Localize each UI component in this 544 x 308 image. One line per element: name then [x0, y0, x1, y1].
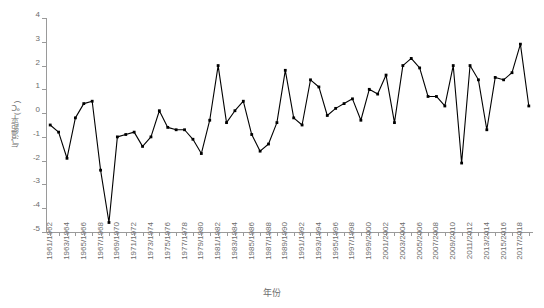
data-point-marker	[317, 86, 320, 89]
data-point-marker	[284, 69, 287, 72]
x-axis-tick	[126, 232, 127, 236]
data-point-marker	[502, 78, 505, 81]
data-point-marker	[519, 43, 522, 46]
y-axis-tick-label: -5	[24, 228, 40, 229]
y-axis-tick	[42, 89, 46, 90]
x-axis-tick-label: 1963/1964	[63, 222, 71, 260]
data-point-marker	[74, 116, 77, 119]
data-point-marker	[166, 126, 169, 129]
data-point-marker	[225, 121, 228, 124]
data-point-marker	[326, 114, 329, 117]
x-axis-tick	[445, 232, 446, 236]
y-axis-tick-label: 1	[24, 85, 40, 86]
x-axis-tick-label: 2005/2006	[416, 222, 424, 260]
x-axis-tick-label: 1979/1980	[197, 222, 205, 260]
x-axis-tick-label: 2017/2018	[516, 222, 524, 260]
y-axis-tick	[42, 18, 46, 19]
x-axis-tick-label: 1977/1978	[181, 222, 189, 260]
data-point-marker	[217, 64, 220, 67]
x-axis-tick-label: 1971/1972	[130, 222, 138, 260]
x-axis-tick	[159, 232, 160, 236]
data-point-marker	[376, 93, 379, 96]
x-axis-tick	[294, 232, 295, 236]
y-axis-tick-label: 2	[24, 62, 40, 63]
data-point-marker	[359, 119, 362, 122]
x-axis-tick-label: 2013/2014	[483, 222, 491, 260]
x-axis-tick	[243, 232, 244, 236]
data-point-marker	[435, 95, 438, 98]
data-point-marker	[427, 95, 430, 98]
plot-area: -5-4-3-2-101234	[46, 18, 533, 232]
x-axis-tick	[344, 232, 345, 236]
x-axis-tick	[411, 232, 412, 236]
data-point-marker	[192, 138, 195, 141]
data-point-marker	[443, 105, 446, 108]
y-axis-tick	[42, 184, 46, 185]
data-point-marker	[124, 133, 127, 136]
x-axis-tick	[310, 232, 311, 236]
data-point-marker	[250, 133, 253, 136]
data-point-marker	[82, 102, 85, 105]
data-point-marker	[91, 100, 94, 103]
x-axis-tick	[260, 232, 261, 236]
data-point-marker	[368, 88, 371, 91]
x-axis-tick	[327, 232, 328, 236]
x-axis-tick	[428, 232, 429, 236]
data-point-marker	[334, 107, 337, 110]
x-axis-tick	[529, 232, 530, 236]
x-axis-tick	[176, 232, 177, 236]
y-axis-tick	[42, 208, 46, 209]
data-point-marker	[410, 57, 413, 60]
y-axis-tick	[42, 137, 46, 138]
x-axis-tick-label: 2011/2012	[466, 222, 474, 259]
x-axis-tick	[92, 232, 93, 236]
x-axis-tick	[394, 232, 395, 236]
x-axis-tick-label: 2001/2002	[382, 222, 390, 260]
y-axis-tick	[42, 42, 46, 43]
x-axis-tick-label: 2003/2004	[399, 222, 407, 260]
y-axis-title: 气温距平(℃)	[8, 64, 24, 184]
data-point-marker	[485, 128, 488, 131]
y-axis-tick-label: -4	[24, 204, 40, 205]
data-point-marker	[267, 143, 270, 146]
y-axis-tick-label: -1	[24, 133, 40, 134]
x-axis-tick	[227, 232, 228, 236]
data-point-marker	[49, 124, 52, 127]
x-axis-tick	[277, 232, 278, 236]
x-axis-tick-label: 1975/1976	[164, 222, 172, 260]
y-axis-tick-label: 3	[24, 38, 40, 39]
x-axis-tick-label: 1987/1988	[265, 222, 273, 260]
data-point-marker	[469, 64, 472, 67]
x-axis-tick-label: 2015/2016	[500, 222, 508, 260]
x-axis-tick	[59, 232, 60, 236]
data-point-marker	[200, 152, 203, 155]
data-point-marker	[99, 169, 102, 172]
data-point-marker	[292, 116, 295, 119]
x-axis-tick-label: 1985/1986	[248, 222, 256, 260]
data-point-marker	[208, 119, 211, 122]
x-axis-tick	[462, 232, 463, 236]
data-point-marker	[343, 102, 346, 105]
data-point-marker	[116, 135, 119, 138]
x-axis-tick-label: 2007/2008	[432, 222, 440, 260]
x-axis-tick-label: 1983/1984	[231, 222, 239, 260]
y-axis-tick-label: 4	[24, 14, 40, 15]
data-point-marker	[452, 64, 455, 67]
x-axis-tick-label: 1965/1966	[80, 222, 88, 260]
x-axis-tick-label: 1991/1992	[298, 222, 306, 260]
data-point-marker	[393, 121, 396, 124]
x-axis-tick-label: 1995/1996	[332, 222, 340, 260]
data-point-marker	[234, 109, 237, 112]
data-point-marker	[150, 135, 153, 138]
x-axis-tick-label: 1973/1974	[147, 222, 155, 260]
y-axis-tick-label: -2	[24, 157, 40, 158]
x-axis-tick-label: 1999/2000	[365, 222, 373, 260]
data-point-marker	[141, 145, 144, 148]
data-point-marker	[57, 131, 60, 134]
x-axis-tick	[210, 232, 211, 236]
data-point-marker	[527, 105, 530, 108]
x-axis-tick	[378, 232, 379, 236]
data-point-marker	[183, 128, 186, 131]
y-axis-tick	[42, 66, 46, 67]
y-axis-tick-label: -3	[24, 180, 40, 181]
